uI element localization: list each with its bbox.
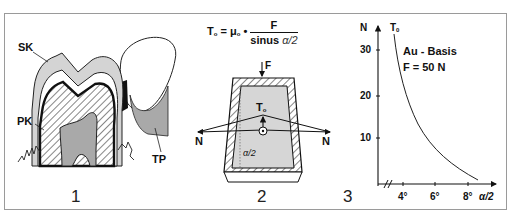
formula-mu: μ: [230, 25, 237, 37]
y-tick-20: 20: [360, 90, 371, 101]
panel-number-1: 1: [71, 187, 80, 207]
panel-1-tooth-diagram: [18, 37, 176, 166]
panel-number-3: 3: [343, 187, 352, 207]
formula-dot: •: [243, 25, 247, 37]
formula: To = μo • F sinus α/2: [207, 19, 298, 46]
formula-equals: =: [220, 25, 226, 37]
y-axis-label: N: [360, 22, 367, 33]
y-tick-10: 10: [360, 132, 371, 143]
label-t0: To: [256, 101, 266, 113]
formula-numerator: F: [250, 19, 297, 33]
x-tick-6: 6°: [430, 191, 440, 202]
formula-fraction: F sinus α/2: [250, 19, 297, 46]
formula-denominator: sinus α/2: [250, 33, 297, 46]
x-tick-4: 4°: [398, 191, 408, 202]
y-tick-30: 30: [360, 44, 371, 55]
label-force-f: F: [265, 60, 271, 71]
label-angle: α/2: [243, 148, 256, 158]
panel-number-2: 2: [257, 187, 266, 207]
label-pk: PK: [17, 115, 32, 127]
panel-2-cone-diagram: [198, 62, 330, 182]
label-n-right: N: [322, 135, 330, 147]
label-n-left: N: [195, 135, 203, 147]
x-axis-label: α/2: [479, 191, 494, 202]
label-tp: TP: [152, 153, 166, 165]
legend-line-1: Au - Basis: [403, 45, 457, 57]
label-sk: SK: [18, 41, 33, 53]
formula-lhs: T: [207, 25, 214, 37]
cone-base: [224, 172, 302, 182]
legend-line-2: F = 50 N: [403, 61, 446, 73]
x-tick-8: 8°: [463, 191, 473, 202]
series-label-t0: T0: [390, 22, 399, 33]
